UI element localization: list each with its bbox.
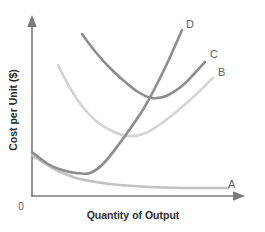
curves-group [32,30,228,188]
curve-label-a: A [228,178,236,190]
x-axis-arrowhead [233,191,245,201]
y-axis-arrowhead [27,15,37,27]
curve-label-c: C [210,48,218,60]
curve-a [32,155,228,188]
curve-labels-group: A B C D [186,18,236,190]
curve-label-b: B [218,66,225,78]
curve-c [82,34,205,98]
chart-canvas: A B C D Quantity of Output Cost per Unit… [0,0,265,232]
cost-curves-chart: A B C D Quantity of Output Cost per Unit… [0,0,265,232]
x-axis-title: Quantity of Output [87,209,180,221]
origin-label: 0 [18,201,24,212]
curve-b [58,65,213,136]
y-axis-title: Cost per Unit ($) [7,69,19,151]
curve-label-d: D [186,18,194,30]
curve-d [32,30,182,174]
